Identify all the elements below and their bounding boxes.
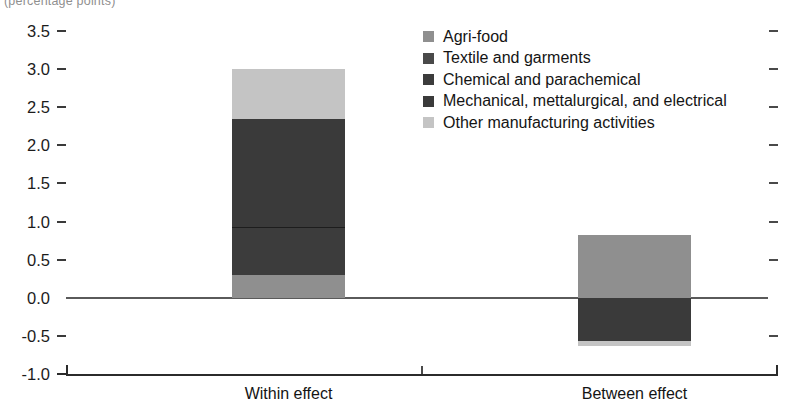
legend-item-label: Other manufacturing activities bbox=[443, 115, 655, 131]
y-axis-tick-mark-right bbox=[769, 68, 778, 70]
y-axis-tick-mark bbox=[57, 373, 66, 375]
y-axis-tick-label: -0.5 bbox=[4, 328, 50, 345]
legend-item[interactable]: Mechanical, mettalurgical, and electrica… bbox=[423, 91, 727, 113]
legend-item[interactable]: Agri-food bbox=[423, 26, 727, 48]
bar-between[interactable] bbox=[578, 235, 691, 346]
y-axis-tick-mark bbox=[57, 182, 66, 184]
legend-swatch-icon bbox=[423, 74, 434, 85]
y-axis-tick-label: -1.0 bbox=[4, 366, 50, 383]
legend-item-label: Textile and garments bbox=[443, 50, 591, 66]
y-axis-tick-mark-right bbox=[769, 182, 778, 184]
y-axis-tick-labels: 3.53.02.52.01.51.00.50.0-0.5-1.0 bbox=[0, 26, 50, 374]
y-axis-tick-label: 0.5 bbox=[4, 252, 50, 269]
legend-swatch-icon bbox=[423, 117, 434, 128]
legend-item-label: Chemical and parachemical bbox=[443, 72, 640, 88]
chart-legend: Agri-foodTextile and garmentsChemical an… bbox=[423, 26, 727, 134]
x-axis-category-label: Between effect bbox=[518, 386, 751, 402]
x-axis-mid-tick bbox=[421, 366, 423, 374]
y-axis-tick-mark bbox=[57, 259, 66, 261]
y-axis-tick-label: 2.0 bbox=[4, 137, 50, 154]
y-axis-tick-label: 1.5 bbox=[4, 175, 50, 192]
bar-segment bbox=[232, 119, 345, 227]
bar-segment bbox=[232, 227, 345, 275]
legend-item[interactable]: Textile and garments bbox=[423, 48, 727, 70]
y-axis-tick-label: 2.5 bbox=[4, 99, 50, 116]
y-axis-tick-mark bbox=[57, 221, 66, 223]
bar-segment bbox=[232, 69, 345, 119]
legend-swatch-icon bbox=[423, 53, 434, 64]
y-axis-tick-label: 1.0 bbox=[4, 214, 50, 231]
bar-segment bbox=[578, 341, 691, 346]
axis-corner-right bbox=[776, 365, 778, 375]
axis-corner-left bbox=[66, 365, 68, 375]
bar-segment bbox=[578, 235, 691, 298]
legend-swatch-icon bbox=[423, 96, 434, 107]
x-axis-category-label: Within effect bbox=[172, 386, 405, 402]
x-axis-line bbox=[66, 374, 778, 376]
bar-within[interactable] bbox=[232, 69, 345, 298]
bar-segment bbox=[578, 298, 691, 341]
y-axis-tick-mark-right bbox=[769, 106, 778, 108]
y-axis-tick-label: 0.0 bbox=[4, 290, 50, 307]
bar-segment bbox=[232, 275, 345, 298]
y-axis-tick-mark bbox=[57, 30, 66, 32]
y-axis-tick-label: 3.5 bbox=[4, 23, 50, 40]
segment-divider-line bbox=[232, 227, 345, 228]
clipped-title-text: (percentage points) bbox=[4, 0, 424, 10]
y-axis-tick-mark bbox=[57, 335, 66, 337]
y-axis-tick-label: 3.0 bbox=[4, 61, 50, 78]
legend-swatch-icon bbox=[423, 31, 434, 42]
legend-item-label: Mechanical, mettalurgical, and electrica… bbox=[443, 93, 727, 109]
y-axis-tick-mark bbox=[57, 68, 66, 70]
legend-item[interactable]: Chemical and parachemical bbox=[423, 69, 727, 91]
y-axis-tick-mark bbox=[57, 144, 66, 146]
y-axis-tick-mark-right bbox=[769, 30, 778, 32]
y-axis-tick-mark-right bbox=[769, 335, 778, 337]
legend-item-label: Agri-food bbox=[443, 29, 508, 45]
y-axis-tick-mark-right bbox=[769, 144, 778, 146]
y-axis-tick-mark-right bbox=[769, 221, 778, 223]
legend-item[interactable]: Other manufacturing activities bbox=[423, 112, 727, 134]
y-axis-tick-mark bbox=[57, 106, 66, 108]
y-axis-tick-mark-right bbox=[769, 259, 778, 261]
